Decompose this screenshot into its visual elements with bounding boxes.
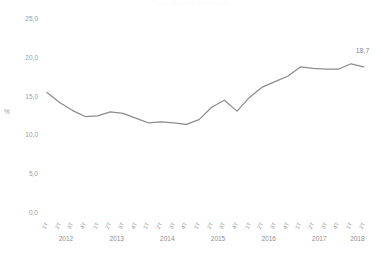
x-axis-year-label: 2014: [160, 235, 174, 242]
x-axis-year-label: 2017: [312, 235, 326, 242]
x-axis-quarter-label: 2T: [256, 221, 264, 230]
x-axis-quarter-label: 2T: [155, 221, 163, 230]
data-series-line: [47, 64, 364, 125]
x-axis-year-label: 2012: [59, 235, 73, 242]
x-axis-quarter-label: 3T: [319, 221, 327, 230]
chart-container: Tasa de paro trimestral 0,05,010,015,020…: [0, 0, 381, 261]
x-axis-quarter-label: 3T: [218, 221, 226, 230]
x-axis-quarter-label: 1T: [294, 221, 302, 230]
x-axis-quarter-label: 4T: [180, 221, 188, 230]
x-axis-year-label: 2018: [350, 235, 364, 242]
x-axis-quarter-label: 4T: [129, 221, 137, 230]
x-axis-quarter-label: 1T: [243, 221, 251, 230]
x-axis-quarter-label: 1T: [142, 221, 150, 230]
axis-lines: [40, 18, 377, 212]
x-axis-quarter-label: 1T: [41, 221, 49, 230]
x-axis-quarter-label: 1T: [91, 221, 99, 230]
x-axis-quarter-label: 3T: [117, 221, 125, 230]
x-axis-year-label: 2013: [109, 235, 123, 242]
x-axis-quarter-label: 3T: [269, 221, 277, 230]
x-axis-quarter-label: 2T: [307, 221, 315, 230]
x-axis-year-label: 2016: [261, 235, 275, 242]
x-axis-quarter-label: 1T: [193, 221, 201, 230]
x-axis-quarter-label: 2T: [205, 221, 213, 230]
last-point-data-label: 18,7: [356, 47, 370, 54]
x-axis-quarter-label: 3T: [66, 221, 74, 230]
x-axis-quarter-label: 2T: [53, 221, 61, 230]
x-axis-year-labels: 2012201320142015201620172018: [0, 235, 381, 247]
x-axis-quarter-label: 4T: [231, 221, 239, 230]
x-axis-quarter-label: 2T: [357, 221, 365, 230]
x-axis-quarter-label: 4T: [281, 221, 289, 230]
x-axis-quarter-label: 3T: [167, 221, 175, 230]
x-axis-quarter-labels: 1T2T3T4T1T2T3T4T1T2T3T4T1T2T3T4T1T2T3T4T…: [0, 214, 381, 230]
x-axis-year-label: 2015: [211, 235, 225, 242]
x-axis-quarter-label: 2T: [104, 221, 112, 230]
x-axis-quarter-label: 1T: [345, 221, 353, 230]
x-axis-quarter-label: 4T: [79, 221, 87, 230]
x-axis-quarter-label: 4T: [332, 221, 340, 230]
